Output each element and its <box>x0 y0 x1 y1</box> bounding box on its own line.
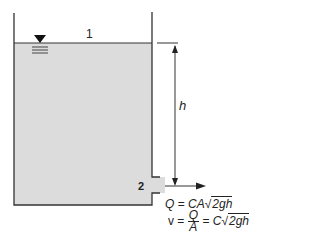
eq-radicand: 2gh <box>211 196 232 211</box>
eq-equals-2: = <box>202 214 209 228</box>
outflow-arrow-icon <box>196 183 206 190</box>
eq-equals-1: = <box>177 214 184 228</box>
discharge-equation: Q = CA√2gh <box>165 197 232 211</box>
tank-right-wall <box>152 12 160 177</box>
dimension-arrow-down-icon <box>172 178 178 186</box>
eq-radicand-2: 2gh <box>228 213 249 228</box>
eq-v: v <box>168 214 174 228</box>
eq-q: Q <box>165 197 174 211</box>
fraction-denominator: A <box>188 222 199 233</box>
height-label: h <box>179 98 186 113</box>
dimension-arrow-up-icon <box>172 45 178 53</box>
velocity-equation: v = Q A = C√2gh <box>168 210 249 233</box>
point-2-label: 2 <box>138 180 144 192</box>
eq-equals: = <box>178 197 185 211</box>
fraction-q-over-a: Q A <box>188 210 199 233</box>
point-1-label: 1 <box>86 27 93 41</box>
